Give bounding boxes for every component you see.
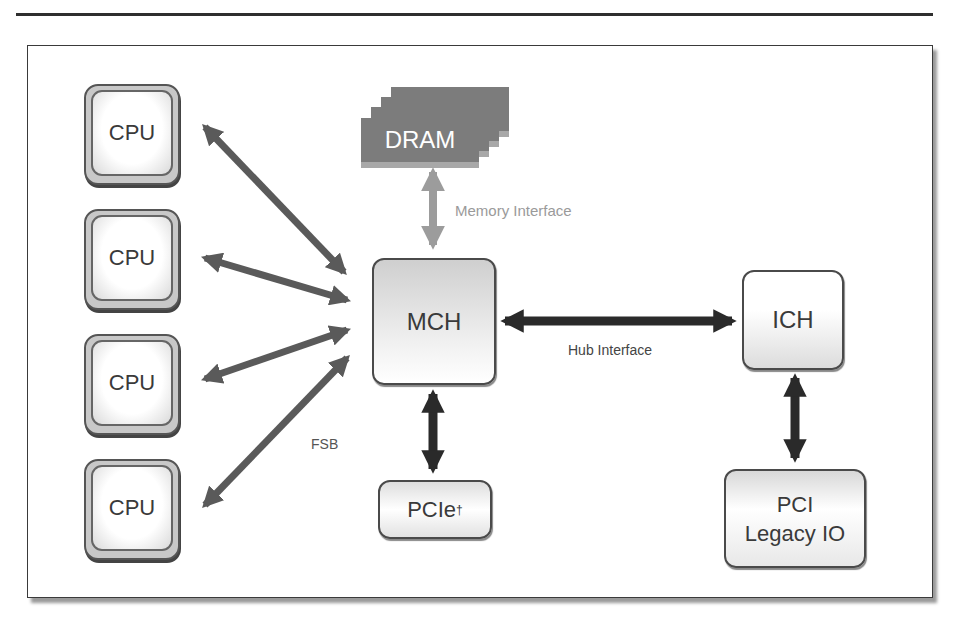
cpu-1-label: CPU (91, 90, 173, 176)
fsb-label: FSB (311, 436, 338, 452)
fsb-arrow-cpu2 (205, 258, 347, 300)
cpu-2: CPU (84, 209, 180, 310)
cpu-3-label: CPU (91, 340, 173, 426)
fsb-arrow-cpu1 (205, 127, 344, 272)
cpu-3: CPU (84, 334, 180, 435)
legacy-io-label: Legacy IO (745, 519, 845, 548)
ich-node: ICH (742, 270, 844, 370)
pcie-node: PCIe† (378, 480, 492, 539)
mch-label: MCH (407, 308, 462, 336)
pci-label: PCI (777, 490, 814, 519)
hub-interface-label: Hub Interface (568, 342, 652, 358)
cpu-4-label: CPU (91, 465, 173, 551)
dagger-mark: † (456, 503, 463, 517)
mch-node: MCH (372, 258, 496, 385)
fsb-arrow-cpu3 (205, 330, 347, 379)
memory-interface-label: Memory Interface (455, 202, 572, 219)
ich-label: ICH (772, 306, 813, 334)
pci-legacy-io-node: PCI Legacy IO (724, 469, 866, 568)
cpu-1: CPU (84, 84, 180, 185)
fsb-arrow-cpu4 (205, 358, 347, 505)
cpu-2-label: CPU (91, 215, 173, 301)
cpu-4: CPU (84, 459, 180, 560)
pcie-label: PCIe (407, 497, 456, 523)
